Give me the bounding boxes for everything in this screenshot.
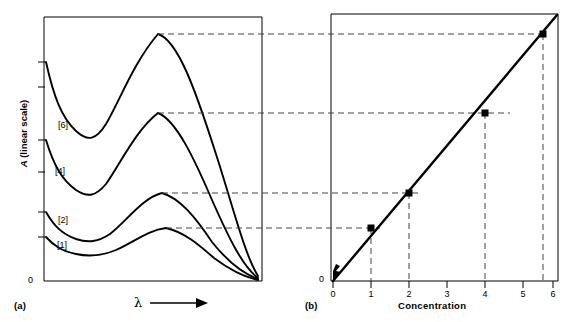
x-tick-label-3: 3 bbox=[439, 289, 455, 299]
curve-label-2: [2] bbox=[58, 215, 68, 225]
y-axis-label-text: (linear scale) bbox=[18, 100, 29, 161]
y-axis-label-symbol: A bbox=[18, 160, 29, 167]
data-point-4 bbox=[482, 110, 489, 117]
spectrum-curves bbox=[46, 34, 258, 280]
x-tick-label-4: 4 bbox=[477, 289, 493, 299]
x-tick-label-1: 1 bbox=[363, 289, 379, 299]
data-point-6 bbox=[540, 31, 547, 38]
data-point-2 bbox=[406, 190, 413, 197]
panel-b-x-axis-label: Concentration bbox=[398, 300, 466, 311]
x-tick-label-2: 2 bbox=[401, 289, 417, 299]
curve-label-4: [4] bbox=[55, 166, 65, 176]
panel-a-y-axis-label: A (linear scale) bbox=[18, 79, 29, 189]
lambda-arrow-icon bbox=[150, 298, 208, 308]
x-tick-label-0: 0 bbox=[325, 289, 341, 299]
panel-a-frame bbox=[44, 17, 262, 281]
panel-b-origin-label: 0 bbox=[319, 274, 324, 284]
panel-b-x-ticks bbox=[333, 281, 553, 288]
data-point-1 bbox=[368, 225, 375, 232]
curve-label-6: [6] bbox=[58, 120, 68, 130]
panel-b-caption: (b) bbox=[305, 300, 318, 311]
panel-a-x-axis-label: λ bbox=[134, 296, 142, 309]
figure-container: (a) (b) A (linear scale) λ Concentration… bbox=[0, 0, 571, 322]
panel-a-caption: (a) bbox=[14, 300, 26, 311]
curve-label-1: [1] bbox=[57, 240, 67, 250]
spectrum-curve-1 bbox=[46, 228, 258, 280]
figure-canvas bbox=[0, 0, 571, 322]
x-tick-label-6: 6 bbox=[545, 289, 561, 299]
calibration-line bbox=[333, 15, 557, 281]
x-tick-label-5: 5 bbox=[515, 289, 531, 299]
origin-arrow-marker bbox=[333, 264, 341, 281]
lambda-symbol: λ bbox=[134, 296, 142, 309]
concentration-drop-lines bbox=[371, 34, 543, 281]
panel-a-origin-label: 0 bbox=[28, 275, 33, 285]
spectrum-curve-4 bbox=[46, 113, 258, 278]
